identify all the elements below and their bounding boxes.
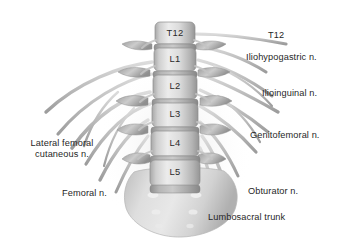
sacral-foramen-left-3: [155, 224, 162, 228]
nerve-label-iliohypogastric: Iliohypogastric n.: [246, 52, 317, 63]
disc-l5-s1: [150, 185, 200, 193]
lumbar-plexus-figure: T12 L1 L2 L3 L4 L5 T12 Iliohypogastric n…: [0, 0, 347, 242]
vertebra-label-l1: L1: [157, 54, 193, 64]
sacral-foramen-right-3: [186, 224, 193, 228]
nerve-label-lumbosacral-trunk: Lumbosacral trunk: [208, 212, 285, 223]
vertebra-label-l3: L3: [155, 109, 195, 119]
vertebra-label-l4: L4: [154, 138, 196, 148]
nerve-label-femoral: Femoral n.: [62, 188, 107, 199]
nerve-label-obturator: Obturator n.: [248, 186, 298, 197]
nerve-label-genitofemoral: Genitofemoral n.: [250, 130, 320, 141]
sacral-foramen-right-2: [189, 209, 198, 214]
nerve-label-ilioinguinal: Ilioinguinal n.: [262, 88, 317, 99]
nerve-label-lateral-femoral-cutaneous: Lateral femoral cutaneous n.: [10, 138, 114, 160]
vertebra-label-l2: L2: [156, 81, 194, 91]
vertebra-label-t12: T12: [158, 28, 192, 38]
vertebra-label-l5: L5: [153, 167, 197, 177]
process-left-t12: [122, 41, 152, 50]
nerve-label-t12: T12: [268, 30, 284, 41]
sacral-foramen-left-2: [152, 209, 161, 214]
